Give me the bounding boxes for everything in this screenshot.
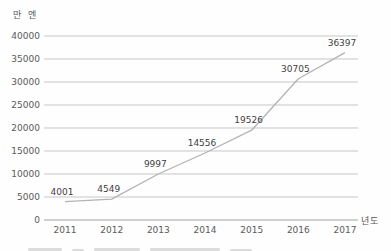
cropped-caption [28, 247, 258, 251]
y-tick-label: 20000 [11, 123, 40, 133]
x-axis-unit-label: 년도 [361, 214, 379, 227]
data-series-line [65, 53, 345, 202]
y-tick-label: 0 [34, 215, 40, 225]
x-tick-label: 2013 [147, 225, 170, 235]
chart-page: 만 엔 050001000015000200002500030000350004… [0, 0, 391, 251]
y-tick-label: 35000 [11, 54, 40, 64]
data-point-label: 4001 [51, 187, 74, 197]
data-point-label: 14556 [188, 138, 217, 148]
x-tick-label: 2015 [240, 225, 263, 235]
y-tick-label: 5000 [17, 192, 40, 202]
x-tick-label: 2014 [194, 225, 217, 235]
y-tick-label: 10000 [11, 169, 40, 179]
y-tick-label: 25000 [11, 100, 40, 110]
data-point-label: 30705 [281, 64, 310, 74]
data-point-label: 9997 [144, 159, 167, 169]
y-tick-label: 30000 [11, 77, 40, 87]
data-point-label: 4549 [97, 184, 120, 194]
data-point-label: 19526 [234, 115, 263, 125]
y-tick-label: 15000 [11, 146, 40, 156]
line-chart: 0500010000150002000025000300003500040000… [0, 0, 391, 251]
x-tick-label: 2011 [54, 225, 77, 235]
x-tick-label: 2012 [100, 225, 123, 235]
x-tick-label: 2017 [334, 225, 357, 235]
data-point-label: 36397 [328, 38, 357, 48]
x-tick-label: 2016 [287, 225, 310, 235]
y-tick-label: 40000 [11, 31, 40, 41]
